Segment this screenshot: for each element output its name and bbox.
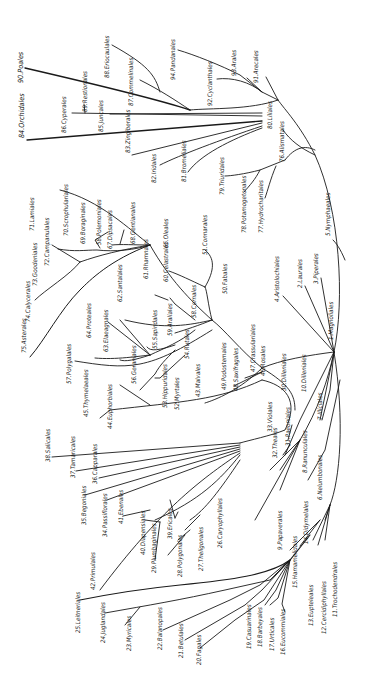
taxon-label: 56.Geraniales	[130, 345, 137, 384]
taxon-label: 90.Poales	[16, 51, 25, 83]
taxon-label: 92.Cyclanthales	[206, 61, 214, 106]
taxon-label: 48.Saxifragales	[232, 348, 240, 391]
taxon-label: 37.Tamaricales	[69, 436, 76, 478]
taxon-label: 82.Iridales	[150, 154, 157, 183]
taxon-label: 62.Santalales	[116, 264, 123, 302]
taxon-label: 91.Arecales	[252, 50, 259, 83]
taxon-label: 47.Crassulariales	[249, 324, 256, 372]
taxon-label: 24.Juglandales	[99, 602, 107, 643]
taxon-label: 35.Begoniales	[80, 486, 88, 525]
taxon-label: 54.Rutales	[183, 329, 190, 359]
taxon-label: 6.Nelumbonales	[316, 455, 323, 500]
taxon-label: 87.Commelinales	[127, 58, 134, 106]
taxon-label: 52.Myrtales	[173, 377, 181, 410]
taxon-label: 81.Bromeliales	[180, 140, 187, 182]
taxon-label: 88.Eriocaulales	[103, 35, 110, 78]
taxon-label: 13.Eupteleales	[307, 585, 315, 626]
taxon-label: 59.Araliales	[166, 303, 173, 336]
taxon-label: 89.Restionales	[81, 71, 88, 112]
taxon-label: 77.Hydrocharitales	[257, 180, 265, 233]
taxon-label: 43.Malvales	[194, 364, 201, 397]
taxon-label: 34.Passiflorales	[101, 493, 108, 537]
taxon-label: 22.Balanopales	[156, 607, 164, 650]
taxon-label: 18.Barbeyales	[256, 607, 264, 647]
taxon-label: 1.Magnoliales	[327, 302, 335, 340]
taxon-label: 85.Juncales	[97, 100, 105, 132]
taxon-label: 76.Alismatales	[278, 121, 285, 162]
taxon-label: 2.Laurales	[296, 259, 303, 288]
taxon-label: 61.Rhamnales	[142, 239, 149, 279]
taxon-label: 36.Capparales	[91, 444, 99, 484]
taxon-label: 94.Pandanales	[169, 39, 176, 80]
taxon-label: 21.Betulales	[177, 623, 184, 658]
taxon-label: 65.Oleales	[162, 218, 169, 248]
taxon-label: 58.Cornales	[190, 285, 197, 318]
taxon-label: 41.Ebenales	[117, 490, 124, 524]
taxon-label: 86.Cyperales	[60, 96, 68, 133]
taxon-label: 93.Arales	[230, 50, 237, 76]
taxon-label: 45.Thymelaeales	[82, 369, 90, 417]
taxon-label: 10.Dilleniales	[300, 354, 307, 392]
taxon-label: 20.Fagales	[195, 635, 203, 665]
taxon-label: 3.Piperales	[312, 253, 320, 284]
taxon-label: 70.Scrophulariales	[62, 184, 70, 236]
taxon-label: 69.Boraginales	[79, 202, 87, 244]
taxon-label: 16.Eucommiales	[279, 609, 286, 655]
taxon-label: 71.Lamiales	[28, 197, 35, 231]
taxon-label: 80.Liliales	[266, 101, 273, 129]
taxon-label: 5.Nymphaeales	[324, 193, 332, 236]
taxon-label: 78.Potamogetonales	[240, 176, 248, 233]
taxon-label: 17.Urticales	[268, 618, 275, 651]
taxon-label: 57.Polygalales	[65, 344, 73, 384]
taxon-label: 64.Proteales	[85, 303, 92, 338]
taxon-label: 19.Casuarinales	[245, 604, 252, 649]
taxon-label: 83.Zingiberales	[124, 110, 132, 153]
taxon-label: 39.Ericales	[166, 508, 173, 539]
taxon-label: 53.Hippuridales	[161, 364, 169, 408]
taxon-label: 44.Euphorbiales	[106, 384, 114, 429]
taxon-label: 15.Hamamelidales	[291, 536, 298, 588]
taxon-label: 79.Triuridales	[218, 157, 225, 195]
taxon-label: 14.Didymelales	[302, 501, 310, 544]
taxon-label: 28.Polygonales	[176, 535, 184, 577]
taxon-label: 68.Gentianales	[129, 202, 136, 244]
taxon-label: 11.Trochodendrales	[331, 562, 338, 617]
taxon-label: 73.Goodeniales	[31, 243, 38, 286]
taxon-label: 42.Primulales	[89, 552, 96, 590]
taxon-label: 25.Leitneriales	[74, 592, 81, 633]
taxon-label: 55.Sapindales	[151, 310, 159, 349]
taxon-label: 8.Ranunculales	[301, 430, 308, 473]
taxon-label: 67.Dipsacales	[106, 210, 114, 249]
taxon-label: 27.Theligonales	[197, 527, 205, 571]
taxon-label: 7.Illiciales	[316, 392, 323, 420]
taxon-label: 9.Papaverales	[276, 511, 284, 550]
taxon-label: 38.Salicales	[44, 429, 51, 462]
taxon-label: 30.Dilleniales	[280, 353, 287, 391]
phylogenetic-tree: 1.Magnoliales2.Laurales3.Piperales4.Aris…	[0, 0, 382, 695]
taxon-label: 29.Plumbaginales	[150, 523, 158, 573]
taxon-label: 75.Asterales	[20, 318, 27, 353]
taxon-label: 4.Aristolochiales	[273, 256, 280, 302]
taxon-label: 12.Cercidiphyllales	[320, 581, 328, 634]
taxon-label: 40.Diapensiales	[139, 511, 147, 555]
taxon-label: 51.Connarales	[201, 215, 208, 255]
taxon-label: 63.Elaeagnales	[102, 309, 110, 352]
taxon-label: 49.Podostemales	[220, 342, 227, 390]
taxon-label: 46.Rosales	[259, 346, 266, 376]
taxon-label: 84.Orchidales	[17, 93, 26, 138]
taxon-label: 50.Fabales	[221, 264, 228, 294]
taxon-label: 26.Caryophyllales	[216, 498, 224, 548]
taxon-label: 33.Violales	[266, 401, 273, 432]
taxon-label: 23.Myricales	[125, 616, 133, 651]
taxon-label: 72.Campanulales	[43, 217, 51, 266]
taxon-label: 31.Paeoniales	[284, 407, 291, 446]
taxon-label: 58.Polemoniales	[95, 199, 102, 245]
taxon-label: 74.Calycerales	[24, 281, 32, 322]
